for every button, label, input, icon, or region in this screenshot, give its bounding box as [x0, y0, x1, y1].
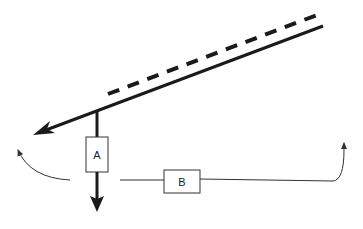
main-solid-line — [46, 26, 323, 130]
curved-arrow-right — [200, 143, 344, 181]
box-b-label: B — [178, 176, 185, 188]
diagram-canvas: A B — [0, 0, 363, 229]
box-a-label: A — [93, 149, 101, 161]
dashed-line — [108, 15, 317, 94]
curved-arrow-left — [18, 150, 70, 180]
